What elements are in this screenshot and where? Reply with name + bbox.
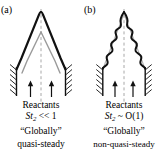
panel-a: (a) — [0, 0, 82, 166]
panel-b-flame-diagram — [83, 0, 165, 106]
panel-a-flame-diagram — [0, 0, 82, 106]
panel-b-stokes-relation: ~ O(1) — [118, 111, 143, 121]
panel-a-stokes-relation: << 1 — [39, 111, 57, 121]
panel-b-regime-label: non-quasi-steady — [83, 139, 165, 149]
panel-b-global-label: “Globally” — [83, 126, 165, 136]
panel-a-stokes-subscript: 2 — [33, 115, 36, 122]
flame-stokes-figure: (a) — [0, 0, 165, 166]
panel-b-stokes-label: St2 ~ O(1) — [83, 111, 165, 122]
panel-b-stokes-symbol: St — [105, 111, 112, 121]
inflow-arrow-right — [49, 81, 54, 98]
panel-a-reactants-label: Reactants — [0, 100, 82, 110]
burner-wall-left-hatching — [96, 65, 103, 96]
panel-a-stokes-label: St2 << 1 — [0, 111, 82, 122]
panel-b: (b) — [83, 0, 165, 166]
inflow-arrow-right — [130, 81, 135, 98]
burner-wall-right-hatching — [66, 65, 73, 96]
inflow-arrow-left — [112, 81, 117, 98]
panel-b-stokes-subscript: 2 — [112, 115, 115, 122]
burner-wall-right-hatching — [145, 65, 152, 96]
inflow-arrow-left — [28, 81, 33, 98]
burner-wall-left-hatching — [10, 65, 17, 96]
panel-a-regime-label: quasi-steady — [0, 139, 82, 149]
panel-b-reactants-label: Reactants — [83, 100, 165, 110]
panel-a-global-label: “Globally” — [0, 126, 82, 136]
panel-a-stokes-symbol: St — [25, 111, 32, 121]
